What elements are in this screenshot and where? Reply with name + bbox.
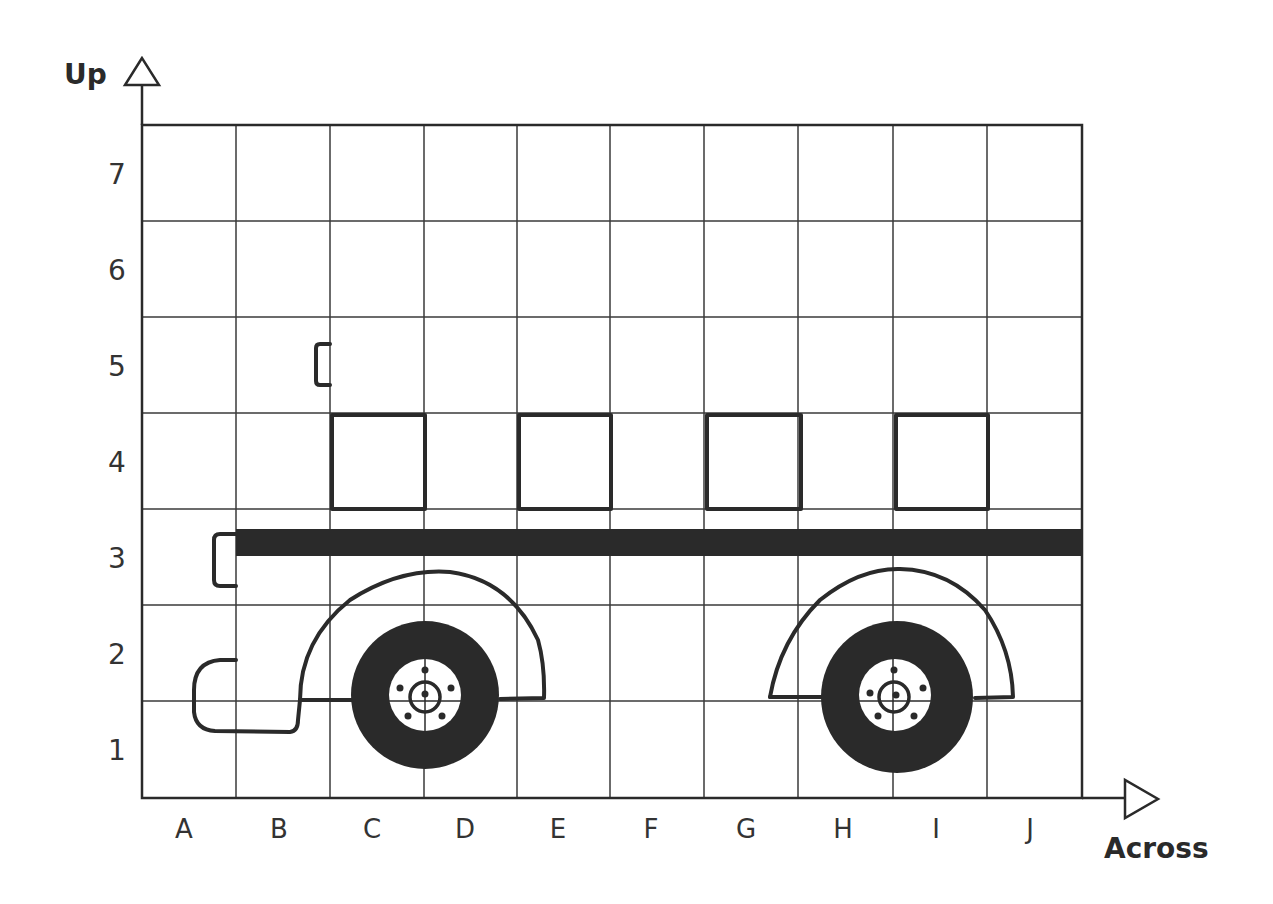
row-label: 1 (108, 734, 126, 767)
row-label: 7 (108, 158, 126, 191)
across-arrow-icon (1125, 780, 1158, 818)
window-c4 (332, 415, 425, 509)
column-labels: A B C D E F G H I J (175, 814, 1034, 844)
bracket-a3 (214, 534, 236, 586)
bracket-b5 (316, 344, 330, 385)
column-label: H (833, 814, 853, 844)
coordinate-grid-diagram: Up Across 7 6 5 4 3 2 1 A B C D (0, 0, 1273, 904)
window-e4 (519, 415, 611, 509)
row-label: 6 (108, 254, 126, 287)
column-label: A (175, 814, 193, 844)
row-label: 2 (108, 638, 126, 671)
row-label: 5 (108, 350, 126, 383)
column-label: B (270, 814, 288, 844)
row-label: 4 (108, 446, 126, 479)
roof-bar (236, 529, 1082, 556)
front-bumper (194, 660, 300, 732)
column-label: E (550, 814, 566, 844)
row-labels: 7 6 5 4 3 2 1 (108, 158, 126, 767)
row-label: 3 (108, 542, 126, 575)
column-label: G (736, 814, 756, 844)
window-i4 (896, 415, 988, 509)
x-axis-title: Across (1104, 832, 1209, 865)
up-arrow-icon (125, 58, 159, 85)
column-label: D (455, 814, 475, 844)
column-label: I (932, 814, 940, 844)
front-wheel (351, 621, 499, 769)
column-label: F (644, 814, 659, 844)
y-axis-title: Up (64, 58, 107, 91)
window-g4 (707, 415, 801, 509)
column-label: C (363, 814, 381, 844)
column-label: J (1024, 814, 1034, 844)
rear-wheel (821, 621, 973, 773)
